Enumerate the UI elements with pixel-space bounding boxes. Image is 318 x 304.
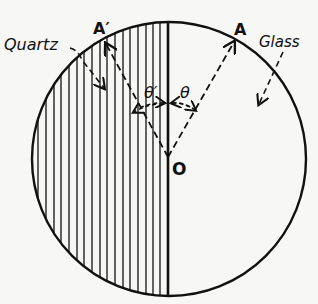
point-a-prime-label: A′ (93, 19, 110, 38)
point-a-label: A (234, 20, 247, 39)
ray-o-to-a (168, 42, 234, 157)
quartz-pointer-arrow (70, 48, 104, 88)
quartz-label: Quartz (4, 35, 58, 54)
angle-theta-label: θ (180, 83, 190, 102)
angle-theta-arc-2 (172, 103, 190, 107)
glass-label: Glass (259, 33, 300, 51)
center-o-label: O (172, 159, 186, 179)
angle-theta-prime-label: θ′ (144, 83, 158, 102)
diagram-canvas: Quartz Glass A′ A O θ′ θ (0, 0, 318, 304)
